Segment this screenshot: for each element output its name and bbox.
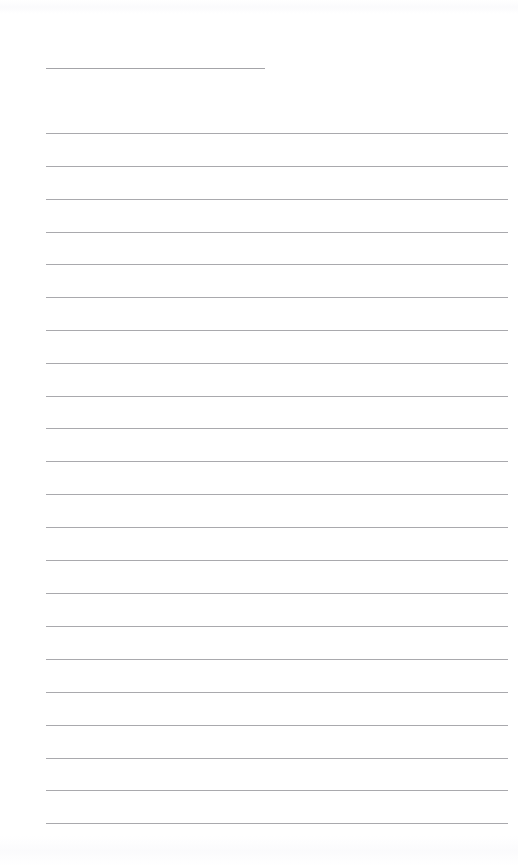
ruled-line[interactable] (46, 494, 508, 495)
ruled-writing-surface[interactable] (0, 0, 518, 866)
ruled-line[interactable] (46, 823, 508, 824)
ruled-line[interactable] (46, 659, 508, 660)
ruled-line[interactable] (46, 133, 508, 134)
ruled-line[interactable] (46, 166, 508, 167)
ruled-line[interactable] (46, 363, 508, 364)
ruled-line[interactable] (46, 560, 508, 561)
ruled-line[interactable] (46, 790, 508, 791)
ruled-line[interactable] (46, 396, 508, 397)
ruled-line[interactable] (46, 199, 508, 200)
ruled-line[interactable] (46, 758, 508, 759)
ruled-line[interactable] (46, 692, 508, 693)
title-rule[interactable] (46, 68, 265, 69)
scanned-page: A blank scanned sheet of ruled writing p… (0, 0, 518, 866)
ruled-line[interactable] (46, 428, 508, 429)
ruled-line[interactable] (46, 527, 508, 528)
ruled-line[interactable] (46, 232, 508, 233)
ruled-line[interactable] (46, 264, 508, 265)
ruled-line[interactable] (46, 626, 508, 627)
ruled-line[interactable] (46, 330, 508, 331)
ruled-line[interactable] (46, 297, 508, 298)
ruled-line[interactable] (46, 593, 508, 594)
ruled-line[interactable] (46, 725, 508, 726)
ruled-line[interactable] (46, 461, 508, 462)
